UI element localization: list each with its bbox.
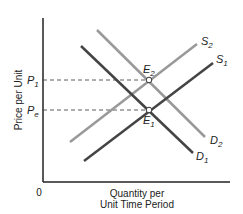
supply-demand-chart: S2 S1 D2 D1 E2 E1 P1 Pe Price per Unit 0… bbox=[0, 0, 243, 214]
y-tick-pe: Pe bbox=[27, 104, 39, 119]
label-s2: S2 bbox=[201, 35, 213, 50]
demand-curve-d1 bbox=[81, 46, 193, 153]
label-d1: D1 bbox=[196, 150, 208, 165]
label-s1: S1 bbox=[216, 53, 228, 68]
x-axis-label-line2: Unit Time Period bbox=[100, 199, 174, 210]
label-d2: D2 bbox=[210, 134, 223, 149]
x-axis-label-line1: Quantity per bbox=[110, 188, 165, 199]
equilibrium-e2-marker bbox=[146, 77, 152, 83]
supply-curve-s2 bbox=[70, 44, 197, 142]
equilibrium-e1-marker bbox=[146, 107, 152, 113]
y-axis-label: Price per Unit bbox=[13, 69, 24, 130]
origin-label: 0 bbox=[36, 187, 42, 198]
y-tick-p1: P1 bbox=[27, 74, 39, 89]
